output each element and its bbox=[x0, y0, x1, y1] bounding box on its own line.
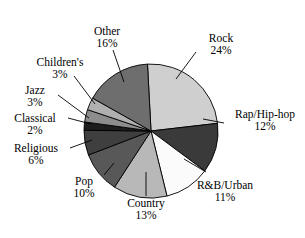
slice-label-religious: Religious 6% bbox=[1, 143, 71, 167]
slice-label-rnb-urban: R&B/Urban 11% bbox=[183, 180, 267, 204]
slice-label-classical-percent: 2% bbox=[2, 125, 68, 137]
slice-label-pop: Pop 10% bbox=[63, 176, 105, 200]
pie-slice-rock bbox=[147, 64, 217, 131]
slice-label-childrens-percent: 3% bbox=[22, 69, 98, 81]
slice-label-rock: Rock 24% bbox=[200, 33, 242, 57]
slice-label-country: Country 13% bbox=[115, 198, 177, 222]
slice-label-classical: Classical 2% bbox=[2, 113, 68, 137]
slice-label-rnb-urban-percent: 11% bbox=[183, 192, 267, 204]
slice-label-rap-hip-hop-percent: 12% bbox=[226, 121, 304, 133]
pie-chart-figure: Rock 24% Rap/Hip-hop 12% R&B/Urban 11% C… bbox=[0, 0, 305, 238]
slice-label-rap-hip-hop: Rap/Hip-hop 12% bbox=[226, 109, 304, 133]
slice-label-other: Other 16% bbox=[78, 26, 136, 50]
slice-label-childrens: Children's 3% bbox=[22, 57, 98, 81]
slice-label-jazz-percent: 3% bbox=[12, 97, 58, 109]
slice-label-rock-percent: 24% bbox=[200, 45, 242, 57]
slice-label-country-percent: 13% bbox=[115, 210, 177, 222]
slice-label-pop-percent: 10% bbox=[63, 188, 105, 200]
slice-label-jazz: Jazz 3% bbox=[12, 85, 58, 109]
slice-label-other-percent: 16% bbox=[78, 38, 136, 50]
slice-label-religious-percent: 6% bbox=[1, 155, 71, 167]
